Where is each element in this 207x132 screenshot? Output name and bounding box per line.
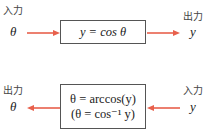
output-var-theta-2: θ — [10, 99, 16, 115]
arrow-right-icon-2 — [147, 32, 180, 34]
arrow-left-icon-1 — [27, 107, 60, 109]
output-var-y-1: y — [190, 24, 196, 40]
function-box-arccos: θ = arccos(y) (θ = cos⁻¹ y) — [60, 84, 146, 129]
arrow-left-icon-2 — [147, 107, 180, 109]
input-var-y-2: y — [190, 99, 196, 115]
input-label-2: 入力 — [183, 82, 203, 97]
equation-cos-inverse: (θ = cos⁻¹ y) — [71, 107, 135, 122]
output-label-1: 出力 — [183, 8, 203, 23]
input-var-theta-1: θ — [10, 24, 16, 40]
arrow-right-icon-1 — [27, 32, 60, 34]
equation-arccos: θ = arccos(y) — [70, 92, 136, 107]
input-label-1: 入力 — [3, 2, 23, 17]
function-box-cos: y = cos θ — [60, 20, 146, 44]
output-label-2: 出力 — [3, 82, 23, 97]
equation-cos: y = cos θ — [80, 25, 126, 40]
